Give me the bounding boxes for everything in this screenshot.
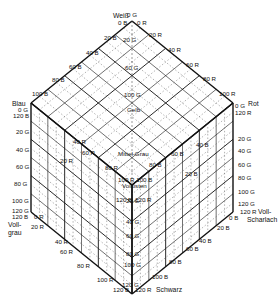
inner-label-40r: 40 R	[73, 138, 87, 145]
inner-label-60g: 60 G	[125, 64, 139, 71]
inner-label-80r: 80 R	[105, 164, 119, 171]
left-label-40g: 40 G	[16, 146, 30, 153]
right-label-40g: 40 G	[238, 147, 252, 154]
lower-right-label-80b: 80 B	[169, 258, 182, 265]
vertex-label-schwarz: Schwarz	[156, 286, 183, 293]
lower-left-label-80r: 80 R	[77, 262, 91, 269]
center-label-volltisten: Volltisten	[122, 182, 147, 189]
right-label-100g: 100 G	[238, 188, 255, 195]
blau-label-120b: 120 B	[13, 112, 29, 119]
edge-label-40b: 40 B	[86, 49, 99, 56]
edge-label-80b: 80 B	[52, 76, 65, 83]
vertex-label-grau: grau	[8, 229, 22, 237]
center-label-120b: 120 B	[116, 196, 132, 203]
inner-label-100g: 100 G	[124, 91, 141, 98]
cube-svg: Weiß 0 G 0 B 0 R 20 B 40 B 60 B 80 B 100…	[0, 0, 280, 298]
rot-label-120r: 120 R	[235, 109, 252, 116]
left-label-120b: 120 B	[12, 213, 28, 220]
right-label-120g: 120 G	[238, 200, 255, 207]
edge-label-60r: 60 R	[186, 61, 200, 68]
center-label-100g: 100 G	[124, 261, 141, 268]
inner-label-60r: 60 R	[82, 149, 96, 156]
edge-label-100r: 100 R	[219, 90, 236, 97]
lower-right-label-40b: 40 B	[199, 237, 212, 244]
inner-label-20r: 20 R	[60, 157, 74, 164]
vertex-label-gelb: Gelb	[127, 106, 141, 113]
rot-label-0g: 0 G	[235, 102, 245, 109]
top-label-0b: 0 B	[118, 19, 127, 26]
right-label-20g: 20 G	[238, 135, 252, 142]
right-label-120r: 120 R	[240, 208, 257, 215]
edge-label-20r: 20 R	[149, 31, 163, 38]
top-label-0r: 0 R	[137, 19, 147, 26]
lower-right-label-0b: 0 B	[229, 214, 238, 221]
center-label-120r: 120 R	[135, 196, 152, 203]
inner-label-40b: 40 B	[196, 141, 209, 148]
vertex-label-voll: Voll-	[8, 221, 21, 228]
left-label-20g: 20 G	[16, 128, 30, 135]
center-label-60g: 60 G	[126, 232, 140, 239]
left-label-100g: 100 G	[12, 197, 29, 204]
inner-label-60b: 60 B	[171, 150, 184, 157]
bottom-label-120r: 120 R	[135, 286, 152, 293]
edge-label-60b: 60 B	[69, 63, 82, 70]
right-label-60g: 60 G	[238, 161, 252, 168]
lower-right-label-100b: 100 B	[152, 273, 168, 280]
vertex-label-voll-right: Voll-	[258, 208, 271, 215]
edge-label-40r: 40 R	[168, 46, 182, 53]
lower-left-label-0r: 0 R	[34, 213, 44, 220]
top-label-0g: 0 G	[127, 11, 137, 18]
inner-label-20b: 20 B	[185, 170, 198, 177]
inner-label-20g: 20 G	[123, 36, 137, 43]
center-label-80g: 80 G	[126, 250, 140, 257]
lower-right-label-20b: 20 B	[217, 224, 230, 231]
center-label-40g: 40 G	[126, 218, 140, 225]
vertex-label-rot: Rot	[248, 100, 259, 107]
vertex-label-mittel-grau: Mittel-Grau	[118, 150, 149, 157]
edge-label-100b: 100 B	[32, 90, 48, 97]
lower-right-label-60b: 60 B	[186, 245, 199, 252]
right-label-80g: 80 G	[238, 174, 252, 181]
lower-left-label-60r: 60 R	[60, 248, 74, 255]
lower-left-label-100r: 100 R	[97, 276, 114, 283]
color-cube-diagram: Weiß 0 G 0 B 0 R 20 B 40 B 60 B 80 B 100…	[0, 0, 280, 298]
left-label-60g: 60 G	[16, 163, 30, 170]
edge-label-20b: 20 B	[104, 34, 117, 41]
vertex-label-scharlach: Scharlach	[247, 216, 277, 223]
inner-label-80b: 80 B	[149, 161, 162, 168]
left-label-80g: 80 G	[14, 180, 28, 187]
lower-left-label-20r: 20 R	[31, 223, 45, 230]
edge-label-80r: 80 R	[203, 75, 217, 82]
lower-left-label-40r: 40 R	[55, 238, 69, 245]
